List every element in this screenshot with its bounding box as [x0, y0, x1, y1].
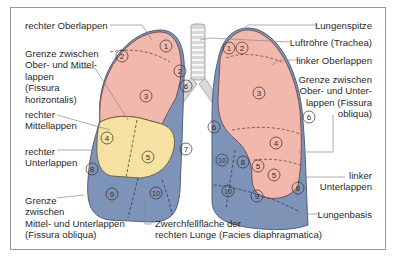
svg-text:5: 5	[146, 153, 151, 162]
svg-text:10: 10	[224, 188, 232, 195]
svg-text:8: 8	[296, 184, 301, 193]
svg-text:4: 4	[105, 134, 110, 143]
svg-text:2: 2	[178, 67, 183, 76]
right-lung	[88, 30, 185, 222]
svg-text:6: 6	[184, 82, 189, 91]
label-zwerchfellflaeche: Zwerchfellfläche der rechten Lunge (Faci…	[155, 218, 322, 241]
svg-text:3: 3	[144, 92, 149, 101]
label-rechter-mittellappen: rechter Mittellappen	[25, 109, 77, 132]
label-fissura-obliqua-rechts: Grenze zwischen Mittel- und Unterlappen …	[25, 195, 125, 241]
svg-text:5: 5	[256, 162, 261, 171]
svg-text:1: 1	[164, 42, 169, 51]
svg-text:5: 5	[272, 171, 277, 180]
label-fissura-horizontalis: Grenze zwischen Ober- und Mittel- lappen…	[25, 48, 99, 105]
label-linker-unterlappen: linker Unterlappen	[320, 170, 372, 193]
svg-text:8: 8	[90, 165, 95, 174]
label-lungenspitze: Lungenspitze	[315, 20, 372, 31]
left-lung	[212, 28, 308, 230]
svg-text:1: 1	[227, 44, 232, 53]
svg-text:10: 10	[152, 190, 160, 197]
svg-text:10: 10	[218, 157, 226, 164]
label-trachea: Luftröhre (Trachea)	[290, 37, 372, 48]
svg-text:2: 2	[240, 44, 245, 53]
svg-text:9: 9	[255, 192, 260, 201]
label-linker-oberlappen: linker Oberlappen	[296, 55, 372, 66]
label-rechter-unterlappen: rechter Unterlappen	[25, 146, 77, 169]
label-lungenbasis: Lungenbasis	[318, 209, 372, 220]
svg-text:2: 2	[120, 52, 125, 61]
label-rechter-oberlappen: rechter Oberlappen	[25, 20, 108, 31]
svg-text:6: 6	[212, 123, 217, 132]
label-fissura-obliqua-links: Grenze zwischen Ober- und Unter- lappen …	[298, 74, 372, 120]
svg-text:8: 8	[241, 158, 246, 167]
svg-text:7: 7	[184, 145, 189, 154]
svg-text:3: 3	[257, 89, 262, 98]
svg-text:4: 4	[274, 139, 279, 148]
